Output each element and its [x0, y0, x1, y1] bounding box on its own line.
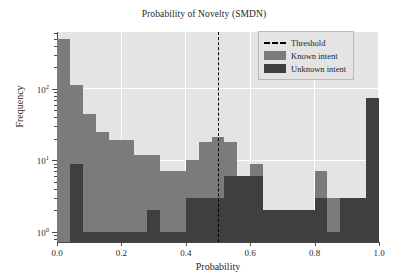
x-tick [250, 243, 251, 246]
bar [289, 210, 302, 242]
x-axis-label: Probability [57, 261, 379, 272]
legend-item-unknown-intent: Unknown intent [264, 62, 346, 75]
legend-item-threshold: Threshold [264, 36, 346, 49]
chart-figure: Probability of Novelty (SMDN) 0.00.20.40… [0, 0, 408, 278]
bar [160, 232, 173, 242]
x-axis-spine [57, 242, 380, 243]
bar [121, 140, 134, 242]
chart-title: Probability of Novelty (SMDN) [0, 9, 408, 19]
x-tick-label: 0.8 [295, 248, 335, 258]
bar [250, 176, 263, 242]
unknown-intent-swatch-icon [264, 64, 286, 73]
x-tick-label: 0.4 [166, 248, 206, 258]
bar [134, 232, 147, 242]
bar [315, 198, 328, 242]
bar [96, 232, 109, 242]
bar [109, 140, 122, 242]
legend-item-known-intent: Known intent [264, 49, 346, 62]
bar [237, 176, 250, 242]
y-axis-label: Frequency [14, 85, 25, 127]
bar [173, 232, 186, 242]
bar [224, 176, 237, 242]
dashed-line-icon [264, 38, 286, 47]
bar [340, 198, 353, 242]
bar [276, 210, 289, 242]
threshold-line [218, 32, 219, 242]
x-tick [186, 243, 187, 246]
bar [96, 132, 109, 242]
legend: Threshold Known intent Unknown intent [258, 31, 354, 80]
x-tick-label: 0.0 [37, 248, 77, 258]
y-axis-label-wrap: Frequency [0, 96, 64, 114]
legend-label-known-intent: Known intent [291, 51, 338, 61]
y-tick-minor [54, 33, 57, 34]
bar [327, 232, 340, 242]
bar [263, 210, 276, 242]
bar [57, 39, 70, 242]
bar [83, 232, 96, 242]
known-intent-swatch-icon [264, 51, 286, 60]
x-tick-label: 0.6 [230, 248, 270, 258]
bar [70, 164, 83, 242]
bar [302, 210, 315, 242]
x-tick [379, 243, 380, 246]
x-tick [121, 243, 122, 246]
x-tick-label: 1.0 [359, 248, 399, 258]
bar [199, 198, 212, 242]
bar [147, 210, 160, 242]
legend-label-threshold: Threshold [291, 38, 325, 48]
bar [366, 98, 379, 242]
x-tick [315, 243, 316, 246]
x-tick-label: 0.2 [101, 248, 141, 258]
bar [186, 198, 199, 242]
legend-label-unknown-intent: Unknown intent [291, 64, 346, 74]
bar [134, 155, 147, 242]
y-tick-label: 100 [20, 226, 49, 238]
x-tick [57, 243, 58, 246]
bar [109, 232, 122, 242]
bar [83, 114, 96, 242]
bar [353, 198, 366, 242]
bar [121, 232, 134, 242]
y-tick-label: 101 [20, 154, 49, 166]
